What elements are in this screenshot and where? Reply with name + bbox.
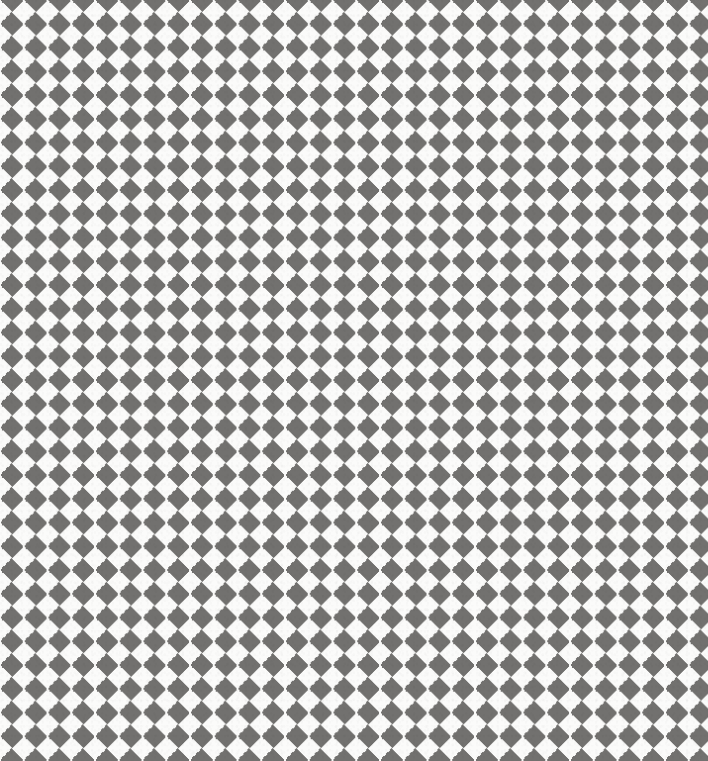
diamond-tiling-layer bbox=[0, 0, 708, 761]
diamond-checkerboard-pattern bbox=[0, 0, 708, 761]
